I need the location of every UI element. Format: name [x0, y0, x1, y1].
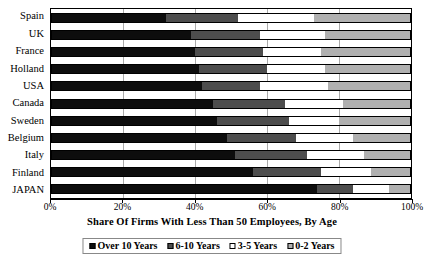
y-axis-category-label: Spain	[0, 8, 47, 25]
stacked-bar[interactable]	[51, 64, 411, 74]
y-axis-category-label: Finland	[0, 164, 47, 181]
bar-segment[interactable]	[364, 150, 411, 160]
legend-label: Over 10 Years	[97, 241, 157, 251]
y-axis-category-label: Holland	[0, 60, 47, 77]
bar-segment[interactable]	[314, 13, 411, 23]
legend-label: 0-2 Years	[295, 241, 334, 251]
bar-segment[interactable]	[51, 116, 217, 126]
stacked-bar[interactable]	[51, 81, 411, 91]
x-axis-tick-label: 0%	[44, 203, 57, 213]
plot-area	[50, 8, 412, 199]
bar-segment[interactable]	[51, 30, 191, 40]
bar-row	[51, 164, 411, 181]
bar-row	[51, 43, 411, 60]
stacked-bar[interactable]	[51, 30, 411, 40]
bar-segment[interactable]	[217, 116, 289, 126]
bar-row	[51, 9, 411, 26]
y-axis-category-label: USA	[0, 77, 47, 94]
bar-segment[interactable]	[195, 47, 263, 57]
stacked-bar[interactable]	[51, 99, 411, 109]
x-axis-tick-label: 40%	[186, 203, 203, 213]
bar-segment[interactable]	[199, 64, 267, 74]
stacked-bar[interactable]	[51, 184, 411, 194]
bar-segment[interactable]	[51, 13, 166, 23]
stacked-bar[interactable]	[51, 167, 411, 177]
bar-row	[51, 78, 411, 95]
bar-segment[interactable]	[353, 184, 389, 194]
bar-segment[interactable]	[253, 167, 321, 177]
bar-segment[interactable]	[343, 99, 411, 109]
bar-row	[51, 129, 411, 146]
stacked-bar[interactable]	[51, 47, 411, 57]
legend-swatch-icon	[230, 243, 236, 249]
stacked-bar[interactable]	[51, 133, 411, 143]
y-axis-category-label: Italy	[0, 147, 47, 164]
x-axis-tick-labels: 0%20%40%60%80%100%	[0, 203, 424, 215]
y-axis-category-label: UK	[0, 25, 47, 42]
bar-segment[interactable]	[285, 99, 343, 109]
bar-segment[interactable]	[51, 167, 253, 177]
bar-segment[interactable]	[51, 47, 195, 57]
bar-segment[interactable]	[191, 30, 259, 40]
bar-segment[interactable]	[260, 81, 328, 91]
bar-segment[interactable]	[317, 184, 353, 194]
bar-segment[interactable]	[51, 99, 213, 109]
bar-segment[interactable]	[328, 81, 411, 91]
legend-label: 6-10 Years	[175, 241, 219, 251]
stacked-bar[interactable]	[51, 116, 411, 126]
stacked-bar[interactable]	[51, 13, 411, 23]
chart-legend: Over 10 Years6-10 Years3-5 Years0-2 Year…	[82, 238, 341, 254]
bar-segment[interactable]	[296, 133, 354, 143]
bar-segment[interactable]	[325, 30, 411, 40]
x-axis-title: Share Of Firms With Less Than 50 Employe…	[0, 216, 424, 228]
legend-swatch-icon	[89, 243, 95, 249]
legend-label: 3-5 Years	[238, 241, 277, 251]
x-axis-tick-label: 60%	[258, 203, 275, 213]
legend-item[interactable]: 3-5 Years	[230, 241, 277, 251]
bar-segment[interactable]	[339, 116, 411, 126]
bar-segment[interactable]	[235, 150, 307, 160]
y-axis-category-label: Belgium	[0, 130, 47, 147]
y-axis-category-label: Sweden	[0, 112, 47, 129]
bar-segment[interactable]	[389, 184, 411, 194]
stacked-bar-chart: SpainUKFranceHollandUSACanadaSwedenBelgi…	[0, 0, 424, 267]
legend-item[interactable]: 6-10 Years	[167, 241, 219, 251]
bar-segment[interactable]	[321, 47, 411, 57]
bar-segment[interactable]	[51, 81, 202, 91]
bar-segment[interactable]	[51, 150, 235, 160]
bar-row	[51, 61, 411, 78]
bar-segment[interactable]	[51, 133, 227, 143]
bar-segment[interactable]	[267, 64, 325, 74]
bar-segment[interactable]	[213, 99, 285, 109]
x-axis-tick-label: 100%	[401, 203, 423, 213]
legend-item[interactable]: 0-2 Years	[287, 241, 334, 251]
bar-segment[interactable]	[227, 133, 295, 143]
stacked-bar[interactable]	[51, 150, 411, 160]
bar-series-container	[51, 9, 411, 198]
legend-item[interactable]: Over 10 Years	[89, 241, 157, 251]
bar-segment[interactable]	[325, 64, 411, 74]
bar-segment[interactable]	[353, 133, 411, 143]
bar-segment[interactable]	[202, 81, 260, 91]
bar-row	[51, 26, 411, 43]
y-axis-category-labels: SpainUKFranceHollandUSACanadaSwedenBelgi…	[0, 8, 47, 199]
bar-segment[interactable]	[238, 13, 314, 23]
x-axis-tick-label: 80%	[331, 203, 348, 213]
bar-row	[51, 112, 411, 129]
bar-segment[interactable]	[307, 150, 365, 160]
bar-segment[interactable]	[289, 116, 339, 126]
bar-segment[interactable]	[321, 167, 371, 177]
bar-row	[51, 95, 411, 112]
bar-row	[51, 181, 411, 198]
bar-segment[interactable]	[260, 30, 325, 40]
bar-segment[interactable]	[263, 47, 321, 57]
y-axis-category-label: Canada	[0, 95, 47, 112]
bar-segment[interactable]	[51, 184, 317, 194]
legend-swatch-icon	[167, 243, 173, 249]
bar-segment[interactable]	[371, 167, 411, 177]
bar-segment[interactable]	[51, 64, 199, 74]
bar-segment[interactable]	[166, 13, 238, 23]
y-axis-category-label: JAPAN	[0, 182, 47, 199]
legend-swatch-icon	[287, 243, 293, 249]
x-axis-tick-label: 20%	[114, 203, 131, 213]
